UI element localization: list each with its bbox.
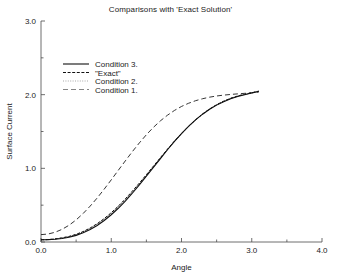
y-tick-label: 3.0	[25, 17, 37, 26]
x-axis-ticks	[41, 238, 322, 242]
curve-condition-2	[41, 91, 259, 240]
y-axis-title: Surface Current	[5, 102, 14, 159]
x-axis-tick-labels: 0.01.02.03.04.0	[35, 246, 328, 255]
plot-area: 0.01.02.03.04.0 0.01.02.03.0 Angle Surfa…	[0, 0, 341, 280]
y-axis-tick-labels: 0.01.02.03.0	[25, 17, 37, 247]
y-axis-ticks	[41, 21, 45, 242]
axis-frame	[41, 21, 322, 242]
chart-legend: Condition 3."Exact"Condition 2.Condition…	[63, 60, 138, 95]
curve-condition-3	[41, 91, 259, 239]
chart-figure: Comparisons with 'Exact Solution' 0.01.0…	[0, 0, 341, 280]
x-tick-label: 0.0	[35, 246, 47, 255]
data-curves	[41, 91, 259, 240]
curve-exact	[41, 91, 259, 240]
x-tick-label: 2.0	[176, 246, 188, 255]
x-tick-label: 1.0	[106, 246, 118, 255]
x-tick-label: 4.0	[316, 246, 328, 255]
legend-label: Condition 1.	[95, 86, 138, 95]
y-tick-label: 1.0	[25, 164, 37, 173]
x-tick-label: 3.0	[246, 246, 258, 255]
x-axis-title: Angle	[171, 263, 192, 272]
y-tick-label: 2.0	[25, 91, 37, 100]
y-tick-label: 0.0	[25, 238, 37, 247]
curve-condition-1	[41, 92, 259, 235]
